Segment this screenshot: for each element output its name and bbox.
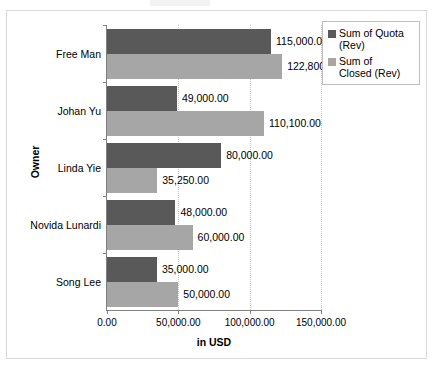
bar[interactable] bbox=[107, 143, 221, 168]
x-axis-line bbox=[106, 310, 321, 311]
bar[interactable] bbox=[107, 168, 157, 193]
y-axis-tick-label: Free Man bbox=[7, 48, 101, 60]
x-axis-tick-label: 100,000.00 bbox=[225, 317, 275, 328]
y-axis-tick bbox=[103, 25, 107, 26]
bar-value-label: 35,000.00 bbox=[162, 257, 209, 282]
y-axis-tick bbox=[103, 82, 107, 83]
chart-legend[interactable]: Sum of Quota(Rev)Sum ofClosed (Rev) bbox=[322, 21, 420, 85]
chart-frame: Owner Free ManJohan YuLinda YieNovida Lu… bbox=[6, 10, 427, 359]
legend-item[interactable]: Sum of Quota(Rev) bbox=[328, 27, 415, 51]
y-axis-tick-label: Song Lee bbox=[7, 276, 101, 288]
bar[interactable] bbox=[107, 257, 157, 282]
bar-value-label: 110,100.00 bbox=[269, 111, 321, 136]
bar-value-label: 115,000.00 bbox=[276, 29, 328, 54]
bar[interactable] bbox=[107, 111, 264, 136]
bar-value-label: 49,000.00 bbox=[182, 86, 229, 111]
y-axis-tick-label: Linda Yie bbox=[7, 162, 101, 174]
x-axis-tick-label: 0.00 bbox=[97, 317, 116, 328]
bar[interactable] bbox=[107, 86, 177, 111]
x-axis-tick bbox=[178, 310, 179, 314]
x-axis-tick bbox=[321, 310, 322, 314]
bar-value-label: 60,000.00 bbox=[198, 225, 245, 250]
bar-value-label: 80,000.00 bbox=[226, 143, 273, 168]
legend-swatch-icon bbox=[328, 58, 336, 66]
y-axis-tick bbox=[103, 139, 107, 140]
x-axis-tick bbox=[250, 310, 251, 314]
bar[interactable] bbox=[107, 200, 175, 225]
bar-value-label: 50,000.00 bbox=[183, 282, 230, 307]
x-axis-tick bbox=[107, 310, 108, 314]
y-axis-tick-label: Johan Yu bbox=[7, 105, 101, 117]
legend-label: Sum of Quota(Rev) bbox=[339, 27, 404, 51]
x-axis-tick-label: 50,000.00 bbox=[156, 317, 201, 328]
y-axis-tick bbox=[103, 253, 107, 254]
legend-item[interactable]: Sum ofClosed (Rev) bbox=[328, 55, 415, 79]
bar[interactable] bbox=[107, 29, 271, 54]
y-axis-tick bbox=[103, 196, 107, 197]
y-axis-tick-label: Novida Lunardi bbox=[7, 219, 101, 231]
plot-area: 115,000.00122,800.0049,000.00110,100.008… bbox=[107, 25, 321, 310]
x-axis-tick-label: 150,000.00 bbox=[296, 317, 346, 328]
bar[interactable] bbox=[107, 54, 282, 79]
bar[interactable] bbox=[107, 225, 193, 250]
top-edge-artifact bbox=[150, 0, 210, 6]
bar[interactable] bbox=[107, 282, 178, 307]
legend-swatch-icon bbox=[328, 30, 336, 38]
x-axis-title: in USD bbox=[107, 336, 321, 348]
chart-canvas: Owner Free ManJohan YuLinda YieNovida Lu… bbox=[7, 11, 426, 358]
bar-value-label: 48,000.00 bbox=[180, 200, 227, 225]
bar-value-label: 35,250.00 bbox=[162, 168, 209, 193]
legend-label: Sum ofClosed (Rev) bbox=[339, 55, 400, 79]
